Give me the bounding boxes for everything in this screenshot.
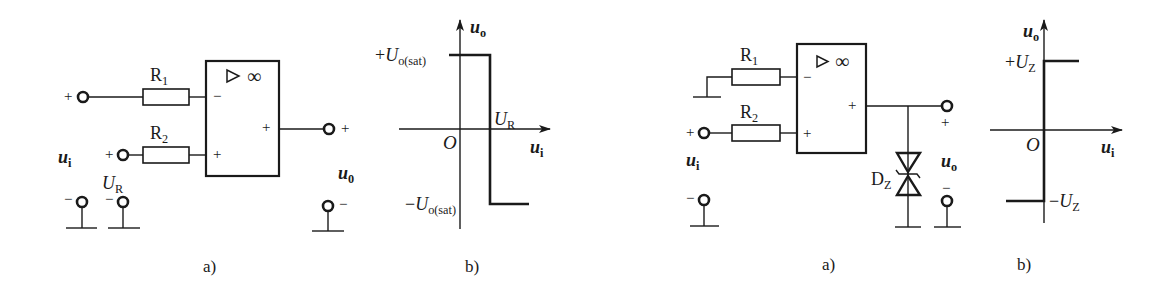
label-uo: u0 xyxy=(338,164,354,185)
resistor-r1 xyxy=(732,69,780,85)
label-ui: ui xyxy=(58,148,71,169)
graph-top-level: +Uo(sat) xyxy=(375,46,426,67)
terminal-output-plus xyxy=(324,124,334,134)
terminal-input-minus xyxy=(699,195,709,205)
label-ur: UR xyxy=(102,174,123,195)
opamp-inverting-sign: − xyxy=(803,70,811,85)
input-plus-sign: + xyxy=(686,125,694,140)
graph-top-level: +UZ xyxy=(1005,53,1036,74)
graph-x-label: ui xyxy=(1101,138,1114,159)
ref-plus-sign: + xyxy=(105,147,113,162)
output-minus-sign: − xyxy=(339,197,347,212)
terminal-ref-minus xyxy=(118,197,128,207)
terminal-input-minus xyxy=(77,197,87,207)
graph-y-label: uo xyxy=(1023,22,1039,43)
diagram-lines xyxy=(0,0,1174,294)
caption-right-b: b) xyxy=(1017,256,1031,273)
caption-left-a: a) xyxy=(203,258,216,275)
opamp-inverting-sign: − xyxy=(213,89,221,104)
output-minus-sign: − xyxy=(942,181,950,196)
graph-x-label: ui xyxy=(530,138,543,159)
infinity-icon: ∞ xyxy=(835,51,849,71)
input-minus-sign: − xyxy=(64,192,72,207)
terminal-ref-plus xyxy=(118,150,128,160)
label-r1: R1 xyxy=(150,66,168,87)
graph-origin: O xyxy=(1026,135,1040,154)
opamp-noninverting-sign: + xyxy=(213,147,221,162)
opamp-noninverting-sign: + xyxy=(803,126,811,141)
input-minus-sign: − xyxy=(686,191,694,206)
graph-origin: O xyxy=(443,133,457,152)
resistor-r2 xyxy=(143,147,189,163)
transfer-curve xyxy=(1006,61,1079,201)
resistor-r2 xyxy=(732,125,780,141)
label-r2: R2 xyxy=(740,103,758,124)
output-plus-sign: + xyxy=(941,115,949,130)
graph-y-label: uo xyxy=(470,18,486,39)
terminal-output-minus xyxy=(323,201,333,211)
diagram-stage: R1 R2 ▷ ∞ ∞ − + + + + + − − − ui UR u0 a… xyxy=(0,0,1174,294)
terminal-input-plus xyxy=(78,92,88,102)
caption-right-a: a) xyxy=(822,256,835,273)
infinity-icon: ∞ xyxy=(247,66,261,86)
opamp-output-sign: + xyxy=(848,98,856,113)
output-plus-sign: + xyxy=(341,121,349,136)
caption-left-b: b) xyxy=(465,258,479,275)
graph-bottom-level: −Uo(sat) xyxy=(405,195,456,216)
label-r2: R2 xyxy=(150,124,168,145)
label-r1: R1 xyxy=(740,46,758,67)
right-comparator-circuit xyxy=(690,44,961,227)
graph-bottom-level: −UZ xyxy=(1049,192,1080,213)
input-plus-sign: + xyxy=(64,89,72,104)
terminal-input-plus xyxy=(699,128,709,138)
label-dz: DZ xyxy=(871,170,891,191)
label-ui: ui xyxy=(686,151,699,172)
terminal-output-plus xyxy=(942,101,952,111)
resistor-r1 xyxy=(143,89,189,105)
opamp-output-sign: + xyxy=(262,120,270,135)
graph-threshold-label: UR xyxy=(494,110,515,131)
terminal-output-minus xyxy=(942,196,952,206)
label-uo: uo xyxy=(941,152,957,173)
